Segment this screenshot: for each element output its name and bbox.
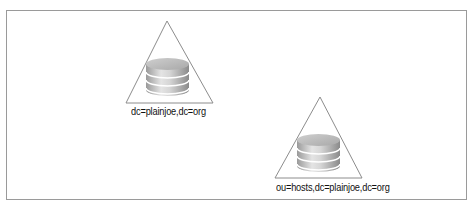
database-icon [297,134,340,172]
node-label-root: dc=plainjoe,dc=org [131,105,206,117]
node-hosts [275,97,362,178]
diagram-canvas [0,0,475,207]
node-label-hosts: ou=hosts,dc=plainjoe,dc=org [276,181,390,193]
database-icon [146,58,189,96]
node-root [126,21,213,103]
